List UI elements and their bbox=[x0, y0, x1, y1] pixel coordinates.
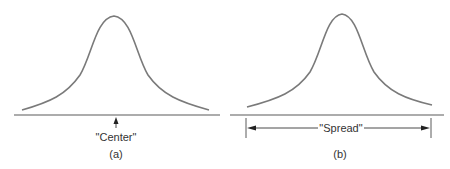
center-label: "Center" bbox=[96, 131, 137, 143]
spread-label: "Spread" bbox=[319, 122, 362, 134]
bell-curve-b bbox=[247, 14, 432, 107]
spread-left-arrow-icon bbox=[247, 126, 256, 131]
center-arrow-icon bbox=[114, 117, 119, 124]
panel-a: "Center" (a) bbox=[14, 16, 220, 160]
bell-curve-a bbox=[22, 16, 209, 110]
caption-b: (b) bbox=[333, 148, 346, 160]
spread-right-arrow-icon bbox=[421, 126, 430, 131]
panel-b: "Spread" (b) bbox=[230, 14, 444, 160]
distribution-diagram: "Center" (a) "Spread" (b) bbox=[0, 0, 450, 169]
caption-a: (a) bbox=[109, 148, 122, 160]
